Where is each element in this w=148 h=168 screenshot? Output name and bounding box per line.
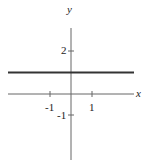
chart-plot	[0, 0, 148, 168]
x-tick-label-1: 1	[89, 102, 95, 113]
y-axis-label: y	[67, 4, 72, 15]
x-tick-label-neg1: -1	[45, 102, 54, 113]
x-axis-label: x	[136, 88, 141, 99]
y-tick-label-neg1: -1	[57, 110, 66, 121]
y-tick-label-2: 2	[61, 45, 67, 56]
